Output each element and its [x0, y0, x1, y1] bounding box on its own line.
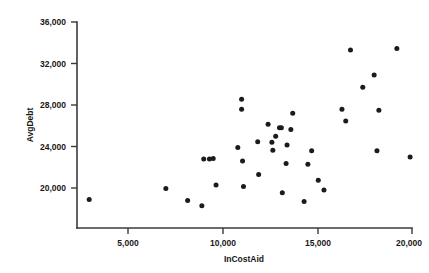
data-point	[290, 111, 295, 116]
data-point	[280, 190, 285, 195]
data-point	[302, 199, 307, 204]
data-point	[309, 148, 314, 153]
data-point	[241, 184, 246, 189]
data-point	[87, 197, 92, 202]
data-point	[273, 134, 278, 139]
data-point	[360, 85, 365, 90]
y-axis-title: AvgDebt	[25, 108, 35, 143]
data-point	[211, 156, 216, 161]
x-axis-ticks	[128, 228, 412, 234]
data-point	[270, 148, 275, 153]
data-point	[235, 145, 240, 150]
y-tick-label-36000: 36,000	[40, 17, 66, 27]
x-tick-label-5000: 5,000	[117, 238, 139, 248]
data-point	[269, 140, 274, 145]
data-point	[288, 127, 293, 132]
data-point	[214, 182, 219, 187]
x-tick-label-10000: 10,000	[210, 238, 236, 248]
data-point	[305, 162, 310, 167]
x-tick-label-20000: 20,000	[396, 238, 422, 248]
y-tick-label-24000: 24,000	[40, 142, 66, 152]
y-axis: 36,000 32,000 28,000 24,000 20,000 AvgDe…	[25, 17, 77, 228]
data-point	[239, 107, 244, 112]
data-point	[255, 139, 260, 144]
scatter-chart: 36,000 32,000 28,000 24,000 20,000 AvgDe…	[0, 0, 429, 273]
x-axis-title: InCostAid	[224, 254, 264, 264]
chart-canvas: 36,000 32,000 28,000 24,000 20,000 AvgDe…	[0, 0, 429, 273]
data-point	[185, 198, 190, 203]
data-point	[316, 178, 321, 183]
data-point	[266, 122, 271, 127]
data-point	[163, 186, 168, 191]
data-point	[201, 156, 206, 161]
data-point	[372, 72, 377, 77]
data-point	[279, 125, 284, 130]
data-point	[285, 142, 290, 147]
x-axis: 5,000 10,000 15,000 20,000 InCostAid	[77, 228, 422, 264]
y-tick-label-20000: 20,000	[40, 183, 66, 193]
data-point	[374, 148, 379, 153]
data-point	[199, 203, 204, 208]
data-point	[239, 97, 244, 102]
data-point	[376, 108, 381, 113]
x-tick-label-15000: 15,000	[305, 238, 331, 248]
data-point	[339, 107, 344, 112]
data-point	[284, 161, 289, 166]
data-point	[343, 119, 348, 124]
data-point	[321, 188, 326, 193]
data-points-layer	[87, 46, 413, 208]
data-point	[348, 48, 353, 53]
x-axis-tick-labels: 5,000 10,000 15,000 20,000	[117, 238, 422, 248]
data-point	[408, 154, 413, 159]
y-tick-label-32000: 32,000	[40, 59, 66, 69]
data-point	[256, 172, 261, 177]
y-tick-label-28000: 28,000	[40, 100, 66, 110]
y-axis-ticks	[71, 22, 77, 188]
y-axis-tick-labels: 36,000 32,000 28,000 24,000 20,000	[40, 17, 66, 193]
data-point	[394, 46, 399, 51]
data-point	[240, 159, 245, 164]
